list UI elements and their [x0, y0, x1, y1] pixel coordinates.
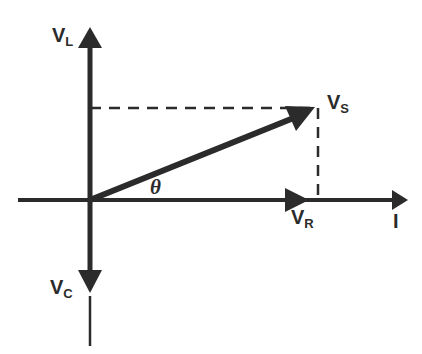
label-v-l: VL: [52, 25, 73, 45]
label-v-s-subscript: S: [340, 101, 349, 116]
v-s-vector-line: [90, 117, 296, 200]
phasor-diagram-figure: VL VC VS VR I θ: [0, 0, 422, 354]
label-v-r-subscript: R: [304, 216, 313, 231]
label-phase-angle: θ: [150, 177, 161, 198]
label-v-l-subscript: L: [65, 34, 73, 49]
label-v-s-symbol: V: [327, 91, 340, 113]
inductive-axis-arrowhead-icon: [78, 27, 102, 48]
label-v-l-symbol: V: [52, 24, 65, 46]
label-v-c-subscript: C: [63, 286, 72, 301]
label-v-c-symbol: V: [50, 276, 63, 298]
capacitive-axis-arrowhead-icon: [78, 270, 102, 293]
label-v-r: VR: [291, 207, 314, 227]
label-v-c: VC: [50, 277, 73, 297]
current-axis-arrowhead-icon: [392, 190, 408, 210]
label-v-r-symbol: V: [291, 206, 304, 228]
label-v-s: VS: [327, 92, 349, 112]
label-current: I: [393, 211, 399, 231]
